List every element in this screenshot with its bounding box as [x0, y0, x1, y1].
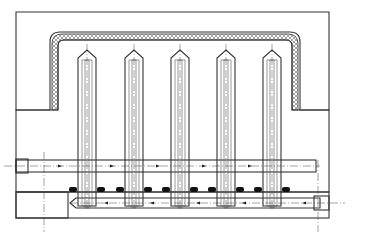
- baffle-pins: [69, 44, 290, 210]
- pin-4: [208, 44, 244, 210]
- inlet-channel: [4, 159, 320, 173]
- core-block: [16, 40, 329, 192]
- base-plate: [16, 192, 329, 218]
- upper-plate: [16, 12, 329, 110]
- cross-section-drawing: [0, 0, 369, 239]
- pin-1: [69, 44, 105, 210]
- pin-2: [116, 44, 152, 210]
- pin-3: [162, 44, 198, 210]
- pin-5: [254, 44, 290, 210]
